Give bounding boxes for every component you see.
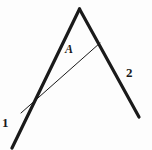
ray-label-2: 2	[126, 66, 133, 79]
geometry-figure: 1 2 A	[0, 0, 152, 150]
region-label-a: A	[65, 43, 73, 55]
ray-label-1: 1	[2, 116, 9, 129]
